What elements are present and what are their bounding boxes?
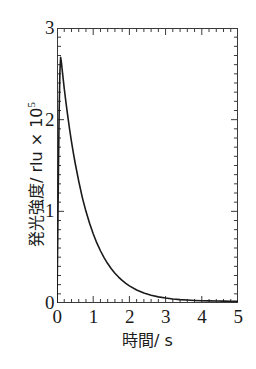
x-tick-label: 0 (53, 306, 62, 328)
x-tick-label: 2 (125, 306, 134, 328)
y-minor-ticks (57, 37, 238, 294)
y-major-ticks (57, 28, 238, 303)
figure-container: 0 1 2 3 発光強度/ rlu × 105 0 1 2 3 4 5 時間/ … (0, 0, 256, 369)
x-axis-title: 時間/ s (57, 331, 238, 351)
data-series-line (57, 57, 238, 303)
y-axis-title-exponent: 5 (25, 102, 37, 108)
plot-canvas (57, 28, 238, 303)
y-tick-label: 3 (30, 18, 54, 37)
x-axis-tick-labels: 0 1 2 3 4 5 (57, 306, 238, 330)
y-tick-label: 0 (30, 293, 54, 312)
x-tick-label: 4 (197, 306, 206, 328)
x-tick-label: 3 (161, 306, 170, 328)
x-tick-label: 1 (89, 306, 98, 328)
x-tick-label: 5 (234, 306, 243, 328)
x-axis-title-text: 時間/ s (122, 331, 173, 350)
y-axis-title-text: 発光強度/ rlu × 10 (27, 107, 46, 247)
y-axis-title: 発光強度/ rlu × 105 (27, 55, 46, 295)
x-major-ticks (57, 28, 238, 303)
x-minor-ticks (64, 28, 231, 303)
